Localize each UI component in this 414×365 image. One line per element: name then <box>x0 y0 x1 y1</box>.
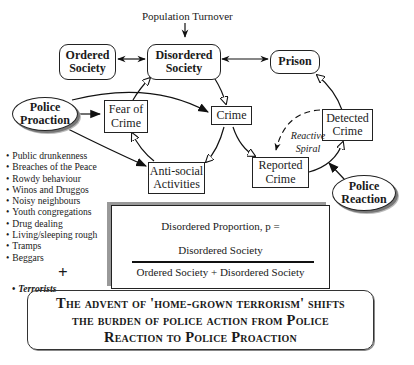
anti-social-examples-list: Public drunkenness Breaches of the Peace… <box>6 150 97 263</box>
formula-denominator: Ordered Society + Disordered Society <box>112 266 329 278</box>
list-item: Drug dealing <box>6 218 97 229</box>
conclusion-banner: The advent of 'home-grown terrorism' shi… <box>27 290 374 350</box>
ordered-society-label: Ordered Society <box>60 49 115 75</box>
banner-line-1: The advent of 'home-grown terrorism' shi… <box>56 295 345 312</box>
disordered-to-crime-arrow <box>215 79 226 104</box>
police-proaction-label: Police Proaction <box>15 101 75 127</box>
police-reaction-label: Police Reaction <box>336 180 392 206</box>
fraction-bar <box>132 261 314 263</box>
fear-of-crime-label: Fear of Crime <box>106 103 146 129</box>
police-proaction-node: Police Proaction <box>12 97 78 131</box>
crime-label: Crime <box>217 109 247 122</box>
anti-social-activities-node: Anti-social Activities <box>148 162 205 194</box>
detected-to-prison-arrow <box>317 75 342 110</box>
reported-crime-node: Reported Crime <box>252 157 309 188</box>
list-item: Breaches of the Peace <box>6 161 97 172</box>
antisocial-to-fear-arrow <box>132 133 154 161</box>
disordered-society-label: Disordered Society <box>148 49 220 75</box>
banner-line-3: Reaction to Police Proaction <box>104 329 297 346</box>
formula-numerator: Disordered Society <box>112 244 329 256</box>
prison-label: Prison <box>278 55 311 68</box>
crime-to-antisocial-arrow <box>206 127 224 162</box>
detected-crime-node: Detected Crime <box>322 109 373 141</box>
fear-to-disordered-arrow <box>133 78 150 100</box>
list-item: Rowdy behaviour <box>6 173 97 184</box>
reactive-spiral-label: Reactive Spiral <box>287 130 329 155</box>
list-item: Living/sleeping rough <box>6 229 97 240</box>
crime-node: Crime <box>211 106 252 125</box>
plus-sign: + <box>58 263 68 283</box>
disordered-proportion-formula: Disordered Proportion, p = Disordered So… <box>111 205 330 289</box>
list-item: Noisy neighbours <box>6 195 97 206</box>
list-item: Youth congregations <box>6 206 97 217</box>
detected-crime-label: Detected Crime <box>324 112 372 138</box>
ordered-society-node: Ordered Society <box>59 44 116 80</box>
banner-line-2: the burden of police action from Police <box>72 312 329 329</box>
population-turnover-label: Population Turnover <box>142 10 233 22</box>
list-item: Tramps <box>6 240 97 251</box>
reaction-to-detected-arrow <box>329 163 345 180</box>
fear-of-crime-node: Fear of Crime <box>104 100 148 133</box>
crime-to-reported-arrow <box>233 127 255 156</box>
list-item: Public drunkenness <box>6 150 97 161</box>
police-reaction-node: Police Reaction <box>332 175 396 211</box>
anti-social-activities-label: Anti-social Activities <box>150 165 204 191</box>
list-item: Winos and Druggos <box>6 184 97 195</box>
formula-lhs: Disordered Proportion, p = <box>112 220 329 232</box>
prison-node: Prison <box>270 50 320 74</box>
list-item: Beggars <box>6 252 97 263</box>
reported-crime-label: Reported Crime <box>256 159 306 185</box>
disordered-society-node: Disordered Society <box>147 44 221 80</box>
